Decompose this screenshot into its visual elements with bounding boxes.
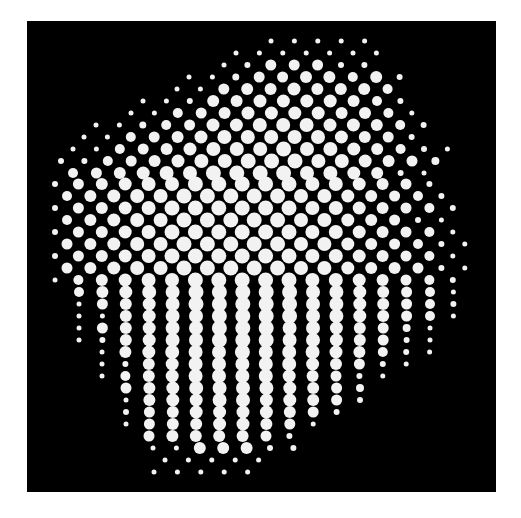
halftone-dot: [119, 178, 132, 191]
halftone-dot: [277, 72, 288, 83]
halftone-dot: [58, 158, 64, 164]
halftone-dot: [120, 371, 130, 381]
halftone-dot: [184, 120, 195, 131]
halftone-dot: [77, 326, 82, 331]
halftone-dot: [283, 370, 296, 383]
halftone-dot: [288, 154, 303, 169]
halftone-dot: [151, 446, 156, 451]
halftone-dot: [235, 225, 250, 240]
halftone-dot: [284, 406, 296, 418]
halftone-dot: [264, 130, 278, 144]
halftone-dot: [166, 370, 179, 383]
halftone-dot: [351, 51, 356, 56]
halftone-dot: [353, 346, 365, 358]
halftone-dot: [358, 83, 370, 95]
halftone-dot: [189, 309, 203, 323]
halftone-dot: [188, 201, 203, 216]
halftone-dot: [288, 130, 302, 144]
halftone-dot: [354, 334, 366, 346]
halftone-dot: [258, 225, 273, 240]
halftone-dot: [353, 274, 366, 287]
halftone-dot: [371, 119, 383, 131]
halftone-dot: [53, 278, 58, 283]
halftone-dot: [241, 130, 255, 144]
halftone-dot: [339, 39, 344, 44]
halftone-dot: [212, 345, 226, 359]
halftone-dot: [166, 358, 179, 371]
halftone-dot: [329, 177, 343, 191]
halftone-dot: [425, 311, 435, 321]
halftone-dot: [73, 275, 83, 285]
halftone-dot: [189, 381, 203, 395]
halftone-dot: [237, 418, 250, 431]
halftone-dot: [237, 430, 249, 442]
halftone-dot: [207, 95, 219, 107]
halftone-dot: [377, 202, 389, 214]
halftone-dot: [241, 442, 253, 454]
halftone-dot: [421, 146, 427, 152]
halftone-dot: [409, 111, 414, 116]
halftone-dot: [166, 309, 180, 323]
halftone-dot: [292, 39, 297, 44]
halftone-dot: [330, 322, 343, 335]
halftone-dot: [207, 119, 220, 132]
halftone-dot: [329, 201, 343, 215]
halftone-dot: [124, 422, 129, 427]
halftone-dot: [189, 345, 203, 359]
halftone-dot: [304, 51, 309, 56]
halftone-dot: [324, 95, 337, 108]
halftone-dot: [107, 190, 120, 203]
halftone-dot: [331, 395, 342, 406]
halftone-dot: [265, 83, 277, 95]
halftone-dot: [143, 358, 155, 370]
halftone-dot: [211, 249, 226, 264]
halftone-dot: [234, 51, 239, 56]
halftone-dot: [362, 39, 367, 44]
halftone-dot: [230, 142, 244, 156]
halftone-dot: [130, 237, 144, 251]
halftone-dot: [62, 239, 73, 250]
halftone-dot: [372, 96, 382, 106]
halftone-dot: [114, 167, 126, 179]
halftone-dot: [438, 193, 444, 199]
halftone-dot: [152, 470, 157, 475]
halftone-dot: [223, 261, 238, 276]
halftone-dot: [194, 154, 208, 168]
halftone-dot: [96, 274, 108, 286]
halftone-dot: [365, 262, 377, 274]
halftone-dot: [177, 213, 192, 228]
halftone-dot: [152, 111, 157, 116]
halftone-dot: [330, 346, 343, 359]
halftone-dot: [288, 83, 301, 96]
halftone-dot: [413, 191, 423, 201]
halftone-dot: [97, 299, 108, 310]
halftone-dot: [103, 156, 113, 166]
halftone-dot: [100, 350, 105, 355]
halftone-dot: [286, 433, 292, 439]
halftone-dot: [166, 333, 180, 347]
halftone-dot: [365, 214, 377, 226]
halftone-dot: [165, 201, 180, 216]
halftone-dot: [177, 261, 192, 276]
halftone-dot: [270, 237, 285, 252]
halftone-dot: [323, 71, 335, 83]
halftone-dot: [115, 144, 125, 154]
halftone-dot: [380, 361, 386, 367]
halftone-dot: [315, 39, 320, 44]
halftone-dot: [259, 345, 273, 359]
halftone-dot: [223, 189, 238, 204]
halftone-dot: [415, 217, 421, 223]
halftone-dot: [258, 201, 273, 216]
halftone-dot: [282, 177, 297, 192]
halftone-dot: [143, 394, 155, 406]
halftone-dot: [142, 346, 155, 359]
halftone-dot: [200, 261, 215, 276]
halftone-dot: [235, 357, 249, 371]
halftone-dot: [256, 458, 261, 463]
halftone-dot: [401, 179, 412, 190]
halftone-dot: [172, 155, 185, 168]
halftone-dot: [354, 359, 365, 370]
halftone-dot: [327, 51, 332, 56]
halftone-dot: [280, 51, 285, 56]
halftone-dot: [190, 430, 202, 442]
